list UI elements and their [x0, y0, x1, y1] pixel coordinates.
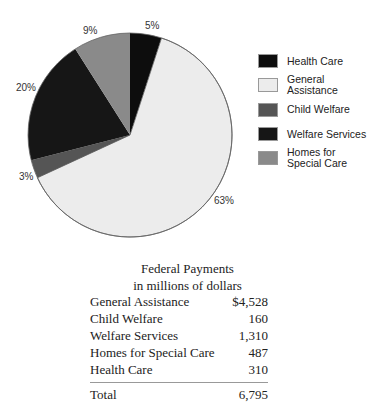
table-row: Welfare Services 1,310 — [90, 327, 268, 344]
pct-label-health-care: 5% — [145, 20, 159, 31]
row-label: General Assistance — [90, 293, 189, 310]
row-value: 160 — [249, 310, 269, 327]
row-value: 310 — [249, 361, 269, 378]
legend-swatch-general-assistance — [258, 78, 278, 92]
total-label: Total — [90, 386, 117, 403]
row-value: $4,528 — [232, 293, 268, 310]
pct-label-general-assistance: 63% — [214, 195, 234, 206]
row-label: Child Welfare — [90, 310, 163, 327]
legend-item-welfare-services: Welfare Services — [258, 127, 366, 141]
legend-swatch-health-care — [258, 54, 278, 68]
table-row: Child Welfare 160 — [90, 310, 268, 327]
table-row: Health Care 310 — [90, 361, 268, 378]
total-divider — [90, 382, 268, 383]
legend-swatch-child-welfare — [258, 103, 278, 117]
legend-item-health-care: Health Care — [258, 54, 343, 68]
row-label: Health Care — [90, 361, 152, 378]
table-row: Homes for Special Care 487 — [90, 344, 268, 361]
legend-swatch-welfare-services — [258, 127, 278, 141]
pie-chart: 5% 9% 20% 3% 63% — [0, 0, 260, 260]
payments-table: General Assistance $4,528 Child Welfare … — [90, 293, 268, 403]
total-value: 6,795 — [239, 386, 268, 403]
pct-label-welfare-services: 20% — [16, 82, 36, 93]
legend-label: Child Welfare — [287, 104, 350, 115]
legend-label: Homes for Special Care — [287, 147, 347, 169]
legend-label: General Assistance — [287, 74, 338, 96]
legend-item-homes-special-care: Homes for Special Care — [258, 151, 347, 169]
pct-label-child-welfare: 3% — [19, 171, 33, 182]
table-row: General Assistance $4,528 — [90, 293, 268, 310]
legend-item-child-welfare: Child Welfare — [258, 103, 350, 117]
legend-label: Health Care — [287, 56, 343, 67]
row-label: Welfare Services — [90, 327, 178, 344]
row-value: 1,310 — [239, 327, 268, 344]
row-value: 487 — [249, 344, 269, 361]
caption-title: Federal Payments — [0, 260, 375, 277]
legend-label: Welfare Services — [287, 129, 366, 140]
pie-svg — [0, 0, 260, 260]
row-label: Homes for Special Care — [90, 344, 215, 361]
pct-label-homes: 9% — [83, 25, 97, 36]
total-row: Total 6,795 — [90, 386, 268, 403]
legend-swatch-homes-special-care — [258, 151, 278, 165]
table-caption: Federal Payments in millions of dollars — [0, 260, 375, 294]
caption-subtitle: in millions of dollars — [0, 277, 375, 294]
legend-item-general-assistance: General Assistance — [258, 78, 338, 96]
